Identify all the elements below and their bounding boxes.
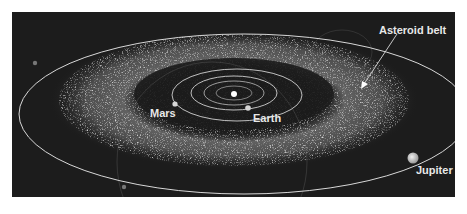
jupiter-icon bbox=[408, 153, 419, 164]
diagram-graphics bbox=[12, 12, 455, 197]
earth-label: Earth bbox=[253, 112, 281, 124]
earth-icon bbox=[245, 105, 251, 111]
jupiter-label: Jupiter bbox=[416, 164, 453, 176]
mars-label: Mars bbox=[150, 107, 176, 119]
sun-icon bbox=[231, 91, 237, 97]
mars-icon bbox=[172, 101, 177, 106]
solar-system-diagram: Asteroid belt Mars Earth Jupiter bbox=[12, 12, 455, 197]
asteroid-belt-label: Asteroid belt bbox=[379, 24, 446, 36]
